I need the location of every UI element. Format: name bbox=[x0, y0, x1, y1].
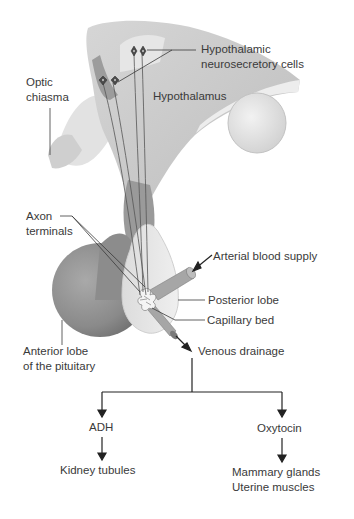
label-hypothalamus: Hypothalamus bbox=[153, 89, 227, 104]
label-oxytocin: Oxytocin bbox=[257, 421, 302, 436]
label-hypothalamic-cells-2: neurosecretory cells bbox=[201, 57, 304, 72]
mammillary-body bbox=[228, 93, 286, 153]
label-anterior-1: Anterior lobe bbox=[23, 344, 88, 359]
label-venous: Venous drainage bbox=[198, 344, 284, 359]
label-optic-1: Optic bbox=[26, 75, 53, 90]
label-anterior-2: of the pituitary bbox=[23, 359, 95, 374]
label-mammary-glands: Mammary glands bbox=[232, 465, 320, 480]
label-capillary-bed: Capillary bed bbox=[207, 313, 274, 328]
label-posterior-lobe: Posterior lobe bbox=[208, 293, 279, 308]
label-arterial: Arterial blood supply bbox=[213, 249, 317, 264]
flow-arrows bbox=[176, 255, 212, 351]
label-adh: ADH bbox=[89, 420, 113, 435]
pituitary-diagram: Hypothalamic neurosecretory cells Optic … bbox=[0, 0, 354, 519]
label-kidney-tubules: Kidney tubules bbox=[60, 463, 135, 478]
label-axon-1: Axon bbox=[26, 209, 52, 224]
label-axon-2: terminals bbox=[26, 224, 73, 239]
label-optic-2: chiasma bbox=[26, 90, 69, 105]
hormone-flowchart-lines bbox=[98, 358, 286, 462]
label-uterine-muscles: Uterine muscles bbox=[232, 480, 314, 495]
label-hypothalamic-cells-1: Hypothalamic bbox=[201, 42, 271, 57]
